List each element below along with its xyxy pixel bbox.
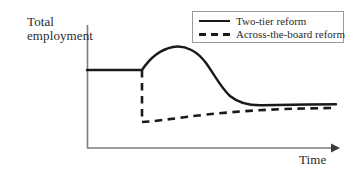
series-across-the-board-reform-line <box>142 70 336 122</box>
x-axis-arrow-icon <box>331 144 340 153</box>
chart-figure: Total employment Time Two-tier reform Ac… <box>0 0 355 179</box>
legend-solid-line-icon <box>199 16 230 26</box>
legend-item-label: Across-the-board reform <box>236 28 345 40</box>
x-axis-label: Time <box>299 153 326 167</box>
chart-legend: Two-tier reform Across-the-board reform <box>192 11 344 43</box>
y-axis-label: Total employment <box>27 15 93 43</box>
series-two-tier-reform-line <box>87 47 336 106</box>
legend-item-label: Two-tier reform <box>236 15 306 27</box>
legend-item-across-the-board-reform[interactable]: Across-the-board reform <box>199 27 345 41</box>
legend-item-two-tier-reform[interactable]: Two-tier reform <box>199 14 306 28</box>
legend-dashed-line-icon <box>199 29 230 39</box>
